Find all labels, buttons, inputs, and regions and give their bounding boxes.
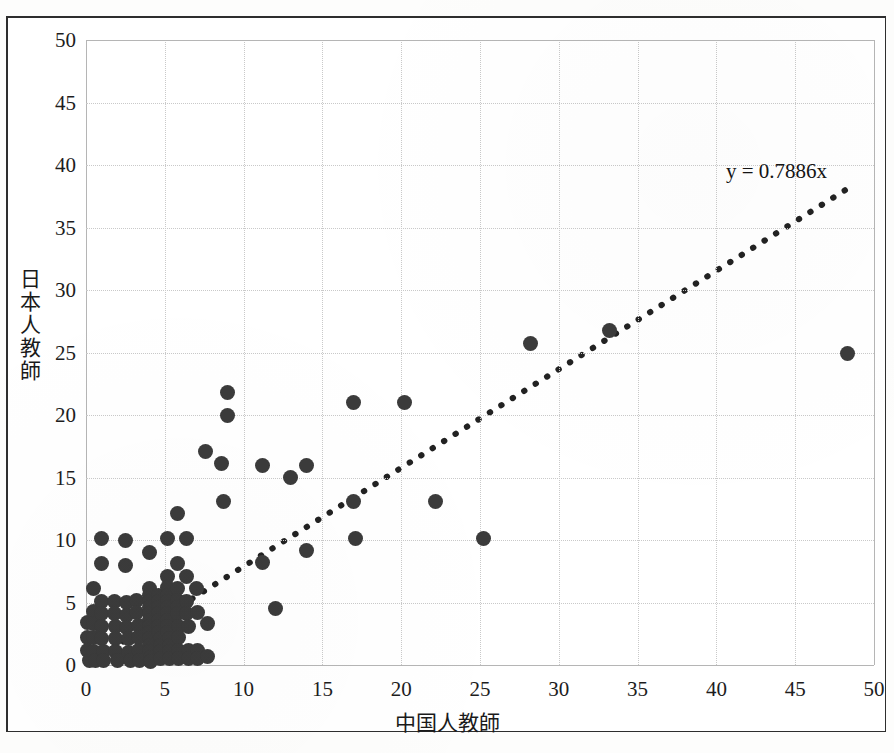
y-axis-tick-label: 0 (24, 653, 76, 678)
gridline-horizontal (86, 353, 874, 354)
data-point (346, 494, 361, 509)
data-point (142, 545, 157, 560)
y-axis-tick-label: 25 (24, 340, 76, 365)
data-point (428, 494, 443, 509)
data-point (189, 581, 204, 596)
gridline-horizontal (86, 40, 874, 41)
x-axis-tick-label: 45 (785, 677, 806, 702)
data-point (118, 558, 133, 573)
x-axis-tick-label: 15 (312, 677, 333, 702)
x-axis-tick-label: 40 (706, 677, 727, 702)
data-point (94, 531, 109, 546)
x-axis-tick-label: 20 (391, 677, 412, 702)
x-axis-tick-label: 50 (864, 677, 885, 702)
data-point (476, 531, 491, 546)
gridline-horizontal (86, 603, 874, 604)
data-point (283, 470, 298, 485)
y-axis-tick-label: 5 (24, 590, 76, 615)
gridline-horizontal (86, 103, 874, 104)
data-point (200, 616, 215, 631)
data-point (602, 323, 617, 338)
y-axis-tick-label: 10 (24, 528, 76, 553)
gridline-horizontal (86, 290, 874, 291)
data-point (299, 458, 314, 473)
data-point (118, 533, 133, 548)
figure-root: 日本人教師 中国人教師 y = 0.7886x 0510152025303540… (0, 0, 894, 753)
data-point (348, 531, 363, 546)
x-axis-tick-label: 30 (548, 677, 569, 702)
data-point (216, 494, 231, 509)
data-point (200, 649, 215, 664)
gridline-horizontal (86, 228, 874, 229)
data-point (268, 601, 283, 616)
y-axis-tick-label: 45 (24, 90, 76, 115)
data-point (198, 444, 213, 459)
data-point (255, 458, 270, 473)
data-point (181, 619, 196, 634)
gridline-vertical (874, 40, 875, 665)
data-point (255, 555, 270, 570)
data-point (214, 456, 229, 471)
gridline-horizontal (86, 665, 874, 666)
data-point (346, 395, 361, 410)
x-axis-tick-label: 25 (470, 677, 491, 702)
data-point (160, 531, 175, 546)
y-axis-tick-label: 50 (24, 28, 76, 53)
data-point (170, 506, 185, 521)
x-axis-tick-label: 0 (81, 677, 92, 702)
data-point (179, 531, 194, 546)
y-axis-tick-label: 35 (24, 215, 76, 240)
y-axis-tick-label: 30 (24, 278, 76, 303)
y-axis-tick-label: 15 (24, 465, 76, 490)
data-point (523, 336, 538, 351)
gridline-horizontal (86, 415, 874, 416)
x-axis-title: 中国人教師 (0, 706, 894, 736)
data-point (840, 346, 855, 361)
data-point (299, 543, 314, 558)
data-point (397, 395, 412, 410)
data-point (220, 408, 235, 423)
plot-area (86, 40, 874, 665)
x-axis-tick-label: 5 (160, 677, 171, 702)
x-axis-tick-label: 10 (233, 677, 254, 702)
data-point (94, 556, 109, 571)
regression-equation-label: y = 0.7886x (726, 159, 827, 184)
data-point (220, 385, 235, 400)
gridline-horizontal (86, 478, 874, 479)
y-axis-tick-label: 20 (24, 403, 76, 428)
x-axis-tick-label: 35 (627, 677, 648, 702)
y-axis-tick-label: 40 (24, 153, 76, 178)
